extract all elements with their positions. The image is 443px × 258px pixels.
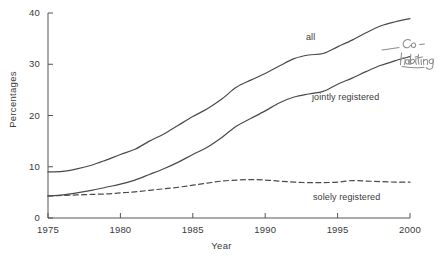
x-axis-title: Year [0, 240, 443, 251]
y-tick-label-20: 20 [14, 110, 40, 121]
series-label-jointly-registered: jointly registered [312, 92, 379, 102]
y-tick-label-40: 40 [14, 7, 40, 18]
series-label-solely-registered: solely registered [313, 192, 380, 202]
x-axis-ticks [48, 213, 410, 218]
x-tick-label-1995: 1995 [316, 224, 360, 235]
series-line-jointly-registered [48, 57, 410, 196]
y-axis-ticks [48, 13, 53, 218]
chart-figure: Percentages Year 010203040 1975198019851… [0, 0, 443, 258]
x-tick-label-1980: 1980 [98, 224, 142, 235]
x-tick-label-1990: 1990 [243, 224, 287, 235]
chart-plot-area [0, 0, 443, 258]
series-label-all: all [306, 32, 315, 42]
x-tick-label-1985: 1985 [171, 224, 215, 235]
y-tick-label-30: 30 [14, 58, 40, 69]
y-tick-label-0: 0 [14, 212, 40, 223]
y-tick-label-10: 10 [14, 161, 40, 172]
x-tick-label-1975: 1975 [26, 224, 70, 235]
x-tick-label-2000: 2000 [388, 224, 432, 235]
y-axis-title: Percentages [7, 60, 18, 140]
